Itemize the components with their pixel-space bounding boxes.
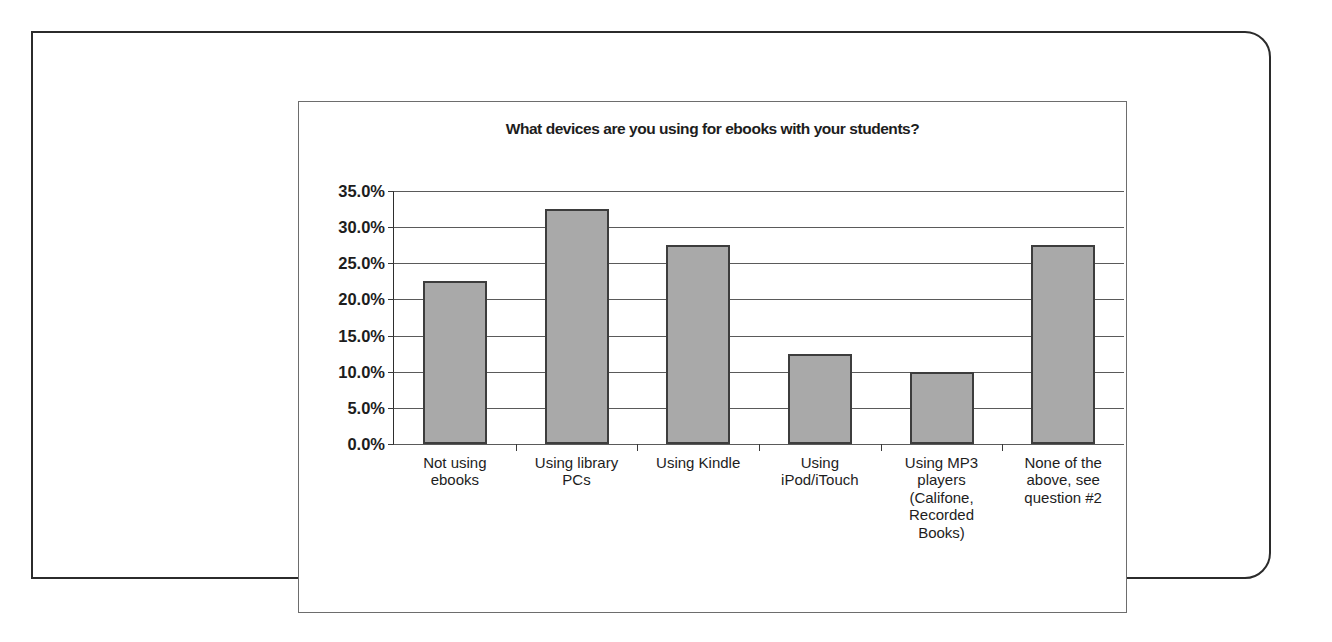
category-label: Using Kindle: [641, 454, 755, 471]
y-axis-line: [393, 191, 394, 444]
x-tick-mark: [881, 444, 882, 451]
y-tick-label: 10.0%: [338, 362, 385, 381]
y-tick-mark: [388, 408, 394, 409]
gridline: [394, 227, 1124, 228]
y-tick-label: 30.0%: [338, 218, 385, 237]
y-tick-label: 0.0%: [347, 435, 385, 454]
gridline: [394, 299, 1124, 300]
category-label: Using library PCs: [520, 454, 634, 489]
y-tick-label: 20.0%: [338, 290, 385, 309]
chart-title: What devices are you using for ebooks wi…: [299, 120, 1126, 138]
y-tick-mark: [388, 263, 394, 264]
category-label: Using MP3 players (Califone, Recorded Bo…: [885, 454, 999, 541]
page-border-frame: What devices are you using for ebooks wi…: [31, 31, 1271, 579]
bar: [1031, 245, 1095, 444]
y-tick-mark: [388, 227, 394, 228]
y-tick-label: 15.0%: [338, 326, 385, 345]
y-tick-mark: [388, 336, 394, 337]
category-label: None of the above, see question #2: [1006, 454, 1120, 506]
bar: [910, 372, 974, 444]
x-tick-mark: [516, 444, 517, 451]
category-label: Not using ebooks: [398, 454, 512, 489]
chart-container: What devices are you using for ebooks wi…: [298, 101, 1127, 613]
gridline: [394, 408, 1124, 409]
y-tick-label: 5.0%: [347, 398, 385, 417]
y-tick-label: 25.0%: [338, 254, 385, 273]
bar: [666, 245, 730, 444]
gridline: [394, 372, 1124, 373]
gridline: [394, 263, 1124, 264]
y-tick-mark: [388, 444, 394, 445]
y-tick-mark: [388, 372, 394, 373]
category-label: Using iPod/iTouch: [763, 454, 877, 489]
gridline: [394, 191, 1124, 192]
y-tick-mark: [388, 191, 394, 192]
bar: [423, 281, 487, 444]
gridline: [394, 336, 1124, 337]
x-tick-mark: [759, 444, 760, 451]
x-tick-mark: [1002, 444, 1003, 451]
bar: [545, 209, 609, 444]
x-tick-mark: [637, 444, 638, 451]
plot-area: 0.0%5.0%10.0%15.0%20.0%25.0%30.0%35.0% N…: [394, 191, 1124, 444]
bar: [788, 354, 852, 444]
y-tick-mark: [388, 299, 394, 300]
y-tick-label: 35.0%: [338, 182, 385, 201]
